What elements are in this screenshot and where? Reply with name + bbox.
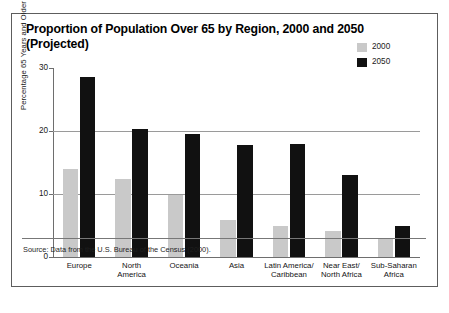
y-tick-label: 30 <box>8 64 48 72</box>
y-tick-label: 20 <box>8 127 48 135</box>
legend-swatch-2000 <box>357 43 367 52</box>
y-tick-mark <box>49 257 53 258</box>
bar-2000-4 <box>273 226 289 258</box>
y-tick-label: 10 <box>8 190 48 198</box>
x-axis-line <box>53 257 420 258</box>
legend-item: 2000 <box>357 41 427 56</box>
y-axis-line <box>53 68 54 258</box>
y-tick-mark <box>49 68 53 69</box>
plot-area: Percentage 65 Years and Older 0102030 Eu… <box>53 68 420 258</box>
bar-2050-5 <box>342 175 358 257</box>
bar-2000-0 <box>63 169 79 257</box>
legend-swatch-2050 <box>357 58 367 67</box>
source-note: Source: Data from the U.S. Bureau of the… <box>23 245 211 254</box>
bar-2050-4 <box>290 144 306 257</box>
legend-label-2000: 2000 <box>372 42 390 51</box>
category-label: Sub-Saharan Africa <box>362 261 426 280</box>
y-tick-label: 0 <box>8 253 48 261</box>
gridline <box>53 131 420 132</box>
legend: 20002050 <box>357 41 427 71</box>
legend-label-2050: 2050 <box>372 57 390 66</box>
bar-2000-6 <box>378 238 394 257</box>
legend-item: 2050 <box>357 56 427 71</box>
bar-2050-3 <box>237 145 253 257</box>
y-axis-title: Percentage 65 Years and Older <box>19 0 28 110</box>
bar-2050-6 <box>395 226 411 257</box>
bar-2050-0 <box>80 77 96 257</box>
figure-panel: Proportion of Population Over 65 by Regi… <box>11 13 438 287</box>
bar-2000-5 <box>325 231 341 257</box>
footer-divider <box>22 238 426 239</box>
